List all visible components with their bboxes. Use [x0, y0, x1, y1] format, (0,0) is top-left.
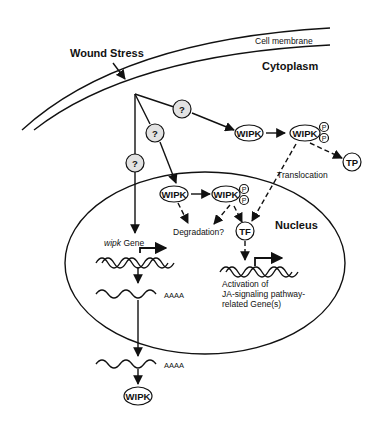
wipk-phosphorylated-cytoplasm-node: WIPK P P — [290, 123, 329, 143]
svg-text:WIPK: WIPK — [293, 128, 318, 139]
nucleus-boundary — [65, 172, 345, 354]
svg-text:P: P — [322, 135, 327, 142]
wipk-nucleus-node: WIPK — [160, 186, 188, 202]
unknown-factor-node-3: ? — [126, 154, 144, 172]
nucleus-label: Nucleus — [275, 219, 318, 231]
nuclear-mrna — [96, 290, 156, 298]
svg-text:TF: TF — [239, 226, 251, 237]
tp-node: TP — [343, 153, 361, 171]
wound-signaling-diagram: Cell membrane Wound Stress Cytoplasm ? ?… — [0, 0, 383, 424]
tf-node: TF — [236, 222, 254, 240]
wipk-translated-node: WIPK — [124, 387, 152, 405]
degradation-label: Degradation? — [173, 227, 224, 237]
unknown-factor-node-2: ? — [146, 124, 164, 142]
translocation-arrow — [252, 144, 296, 221]
svg-text:P: P — [242, 197, 247, 204]
svg-text:WIPK: WIPK — [214, 189, 239, 200]
svg-text:TP: TP — [346, 157, 359, 168]
nuclear-polya-label: AAAA — [164, 291, 184, 300]
cytoplasmic-polya-label: AAAA — [164, 361, 184, 370]
svg-text:WIPK: WIPK — [162, 189, 187, 200]
arrow-to-wipk-cyto — [192, 113, 234, 130]
activation-label-line2: JA-signaling pathway- — [222, 289, 305, 299]
svg-text:?: ? — [152, 128, 158, 139]
wipk-gene-dna-helix — [96, 258, 174, 268]
cell-membrane-label: Cell membrane — [255, 36, 313, 46]
degradation-arrow-1 — [178, 203, 188, 223]
wipk-gene-label: wipk Gene — [104, 238, 144, 248]
degradation-arrow-2 — [214, 205, 230, 224]
wound-stress-label: Wound Stress — [70, 47, 144, 59]
activation-label-line3: related Gene(s) — [222, 299, 281, 309]
svg-text:?: ? — [179, 104, 185, 115]
svg-text:P: P — [242, 186, 247, 193]
svg-text:P: P — [322, 124, 327, 131]
wipk-gene-transcription-arrow — [140, 248, 166, 253]
activation-label-line1: Activation of — [222, 279, 269, 289]
svg-text:WIPK: WIPK — [126, 391, 151, 402]
cytoplasm-label: Cytoplasm — [262, 60, 318, 72]
arrow-to-tp — [310, 143, 342, 158]
arrow-wipk-to-tf — [234, 206, 242, 222]
translocation-label: Translocation — [277, 170, 328, 180]
svg-text:?: ? — [132, 158, 138, 169]
unknown-factor-node-1: ? — [173, 100, 191, 118]
svg-text:WIPK: WIPK — [237, 128, 262, 139]
ja-gene-transcription-arrow — [255, 258, 282, 266]
wound-stress-arrow — [113, 63, 125, 79]
ja-gene-dna-helix — [220, 267, 298, 277]
wipk-cytoplasm-node: WIPK — [235, 125, 263, 141]
cytoplasmic-mrna — [96, 360, 156, 368]
wipk-phosphorylated-nucleus-node: WIPK P P — [212, 185, 249, 205]
